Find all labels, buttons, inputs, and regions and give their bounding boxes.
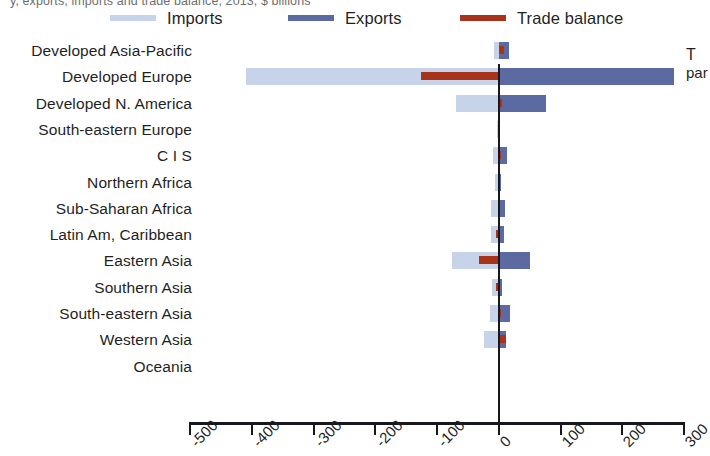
plot-area: Developed Asia-PacificDeveloped EuropeDe…	[0, 34, 710, 390]
legend-label-trade-balance: Trade balance	[517, 9, 623, 28]
category-label: Developed Asia-Pacific	[31, 38, 192, 64]
bar-trade-balance	[499, 46, 504, 54]
chart-legend: Imports Exports Trade balance	[0, 6, 710, 34]
category-label: Latin Am, Caribbean	[50, 222, 192, 248]
category-label: South-eastern Europe	[38, 117, 192, 143]
legend-swatch-trade-balance-icon	[460, 15, 506, 21]
x-tick-label: 300	[681, 420, 710, 450]
bar-row: South-eastern Europe	[0, 117, 710, 143]
bar-row: Northern Africa	[0, 170, 710, 196]
bar-row: Southern Asia	[0, 275, 710, 301]
category-label: Sub-Saharan Africa	[56, 196, 192, 222]
bar-trade-balance	[421, 72, 499, 80]
legend-swatch-imports-icon	[110, 15, 156, 21]
legend-label-imports: Imports	[167, 9, 223, 28]
trade-balance-chart: y, exports, imports and trade balance, 2…	[0, 0, 710, 456]
bar-row: Latin Am, Caribbean	[0, 222, 710, 248]
bar-exports	[499, 252, 530, 269]
category-label: Developed N. America	[36, 91, 192, 117]
legend-label-exports: Exports	[345, 9, 402, 28]
category-label: South-eastern Asia	[59, 301, 192, 327]
legend-item-exports: Exports	[288, 6, 402, 30]
bar-row: Developed Asia-Pacific	[0, 38, 710, 64]
category-label: Developed Europe	[62, 64, 192, 90]
bar-trade-balance	[479, 256, 499, 264]
legend-swatch-exports-icon	[288, 15, 334, 21]
bar-exports	[499, 68, 674, 85]
bar-row: Developed Europe	[0, 64, 710, 90]
bar-imports	[456, 95, 499, 112]
category-label: Eastern Asia	[104, 248, 192, 274]
bar-exports	[499, 95, 546, 112]
bar-row: Eastern Asia	[0, 248, 710, 274]
bar-row: South-eastern Asia	[0, 301, 710, 327]
bar-row: Developed N. America	[0, 91, 710, 117]
category-label: Northern Africa	[87, 170, 192, 196]
bar-row: Western Asia	[0, 327, 710, 353]
bar-row: C I S	[0, 143, 710, 169]
edge-text-line-2: par	[686, 64, 710, 81]
bar-row: Oceania	[0, 354, 710, 380]
category-label: Western Asia	[100, 327, 192, 353]
bar-row: Sub-Saharan Africa	[0, 196, 710, 222]
zero-axis-line	[498, 64, 500, 428]
edge-text-line-1: T	[686, 46, 710, 64]
category-label: Southern Asia	[94, 275, 192, 301]
category-label: Oceania	[134, 354, 192, 380]
x-tick-label: 0	[496, 432, 514, 450]
legend-item-imports: Imports	[110, 6, 223, 30]
bar-trade-balance	[499, 335, 506, 343]
category-label: C I S	[157, 143, 192, 169]
legend-item-trade-balance: Trade balance	[460, 6, 623, 30]
bar-imports	[484, 331, 499, 348]
